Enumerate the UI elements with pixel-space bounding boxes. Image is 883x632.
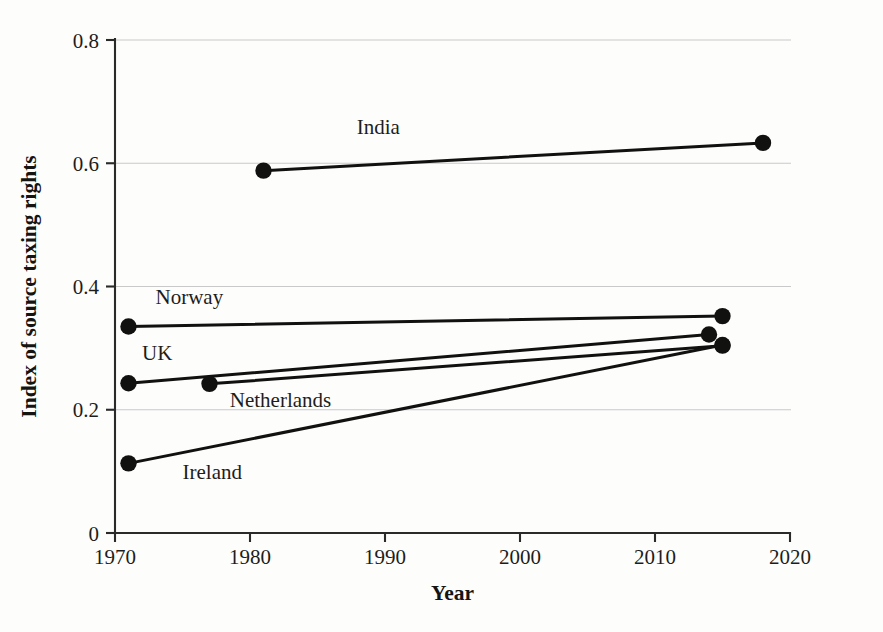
x-tick-label: 2020 (769, 545, 811, 569)
series-line-india (264, 143, 764, 171)
x-tick-label: 2000 (499, 545, 541, 569)
data-point-uk (701, 326, 717, 342)
data-point-ireland (714, 337, 730, 353)
x-tick-label: 1980 (229, 545, 271, 569)
y-tick-label: 0.6 (73, 152, 99, 176)
series-line-netherlands (210, 346, 723, 384)
data-point-india (755, 135, 771, 151)
line-chart: 00.20.40.60.8197019801990200020102020 In… (0, 0, 883, 632)
y-tick-label: 0.4 (73, 275, 100, 299)
y-tick-label: 0.8 (73, 29, 99, 53)
data-point-norway (714, 308, 730, 324)
y-axis-title: Index of source taxing rights (17, 155, 41, 417)
data-point-netherlands (201, 376, 217, 392)
x-tick-label: 2010 (634, 545, 676, 569)
series-label-norway: Norway (156, 285, 224, 309)
series-label-netherlands: Netherlands (230, 388, 331, 412)
y-tick-label: 0.2 (73, 398, 99, 422)
chart-figure: 00.20.40.60.8197019801990200020102020 In… (0, 0, 883, 632)
series-line-norway (129, 316, 723, 326)
series-line-uk (129, 335, 710, 384)
data-point-ireland (120, 455, 136, 471)
gridlines-group (115, 40, 791, 410)
series-label-ireland: Ireland (183, 460, 243, 484)
x-axis-title: Year (431, 581, 474, 605)
data-point-uk (120, 375, 136, 391)
series-label-uk: UK (142, 341, 172, 365)
data-point-india (255, 162, 271, 178)
x-tick-label: 1970 (94, 545, 136, 569)
series-line-ireland (129, 345, 723, 463)
data-point-norway (120, 318, 136, 334)
series-label-india: India (357, 115, 401, 139)
y-tick-label: 0 (89, 522, 100, 546)
x-tick-label: 1990 (364, 545, 406, 569)
series-lines-group (129, 143, 764, 463)
